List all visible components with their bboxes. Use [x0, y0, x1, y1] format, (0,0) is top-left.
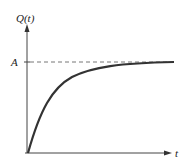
y-axis-label: Q(t)	[16, 12, 35, 25]
graph: Q(t) A t	[0, 0, 185, 167]
asymptote-label: A	[10, 56, 18, 68]
x-axis-label: t	[175, 147, 179, 159]
y-axis-arrow-icon	[25, 24, 30, 32]
q-curve	[28, 62, 174, 153]
x-axis-arrow-icon	[164, 151, 172, 156]
